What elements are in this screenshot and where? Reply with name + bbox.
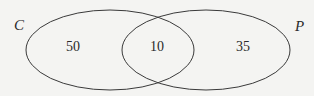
- intersection-count: 10: [150, 39, 164, 55]
- set-p-label: P: [295, 18, 304, 35]
- set-c-only-count: 50: [66, 39, 80, 55]
- set-c-label: C: [14, 17, 24, 34]
- set-c-ellipse: [26, 10, 194, 90]
- set-p-only-count: 35: [236, 39, 250, 55]
- set-p-ellipse: [122, 10, 290, 90]
